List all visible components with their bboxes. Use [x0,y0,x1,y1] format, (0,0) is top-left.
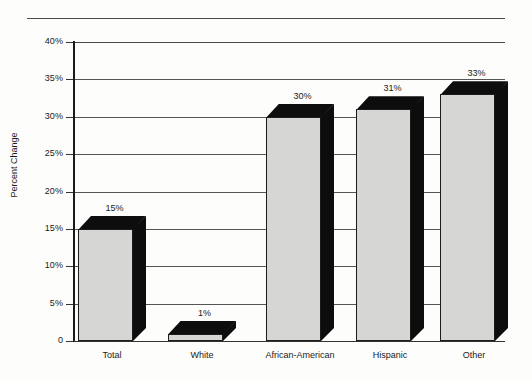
bar-side-face [133,216,146,341]
bar-front-face [78,229,133,341]
category-label-other: Other [424,350,524,360]
bar-side-face [411,96,424,341]
bar-front-face [356,109,411,341]
y-tick-35 [66,79,73,80]
y-axis-title: Percent Change [9,119,19,211]
bar-side-face [495,81,508,341]
bar-value-label-2: 30% [275,91,330,101]
y-tick-5 [66,304,73,305]
x-axis-line [74,341,505,342]
bar-other [440,81,508,341]
y-tick-label-25: 25% [45,148,63,158]
bar-african-american [266,104,334,341]
bar-value-label-0: 15% [87,203,142,213]
y-tick-label-30: 30% [45,111,63,121]
category-label-white: White [152,350,252,360]
plot-area [74,42,505,341]
y-tick-label-15: 15% [45,223,63,233]
category-label-total: Total [62,350,162,360]
y-tick-label-40: 40% [45,36,63,46]
y-tick-label-5: 5% [50,298,63,308]
bar-white [168,321,236,341]
y-tick-40 [66,42,73,43]
y-tick-10 [66,266,73,267]
top-divider-rule [27,18,505,19]
bar-front-face [266,117,321,341]
y-tick-25 [66,154,73,155]
y-tick-30 [66,117,73,118]
y-tick-label-20: 20% [45,186,63,196]
bar-value-label-4: 33% [449,68,504,78]
bar-hispanic [356,96,424,341]
bar-front-face [440,94,495,341]
category-label-african-american: African-American [250,350,350,360]
bar-value-label-3: 31% [365,83,420,93]
bar-total [78,216,146,341]
bar-side-face [321,104,334,341]
y-tick-15 [66,229,73,230]
bar-front-face [168,334,223,341]
y-tick-0 [66,341,73,342]
bar-value-label-1: 1% [177,308,232,318]
gridline-40 [74,42,505,43]
chart-page: 05%10%15%20%25%30%35%40% Percent Change … [0,0,532,381]
gridline-35 [74,79,505,80]
y-tick-20 [66,192,73,193]
y-axis-line [73,41,75,342]
y-tick-label-0: 0 [58,335,63,345]
y-tick-label-35: 35% [45,73,63,83]
y-tick-label-10: 10% [45,260,63,270]
